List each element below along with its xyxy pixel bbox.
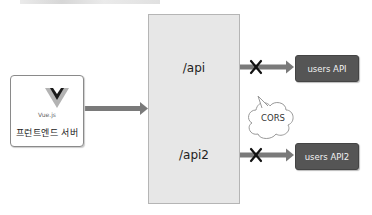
route-api2-label: /api2: [149, 148, 239, 162]
proxy-server-box: /api /api2: [148, 14, 240, 204]
route-api-label: /api: [149, 61, 239, 75]
vue-logo-label: Vue.js: [11, 111, 83, 118]
arrow-api2-to-users-api2: [239, 149, 294, 162]
cors-label: CORS: [250, 113, 296, 123]
arrow-frontend-to-proxy: [83, 102, 148, 115]
users-api-box: users API: [295, 55, 359, 82]
users-api2-box: users API2: [295, 143, 359, 170]
frontend-server-label: 프런트엔드 서버: [11, 126, 83, 139]
arrow-api-to-users-api: [239, 61, 294, 74]
vue-logo-icon: [45, 88, 69, 108]
users-api-label: users API: [307, 64, 346, 74]
frontend-server-box: Vue.js 프런트엔드 서버: [10, 75, 84, 147]
users-api2-label: users API2: [305, 152, 350, 162]
